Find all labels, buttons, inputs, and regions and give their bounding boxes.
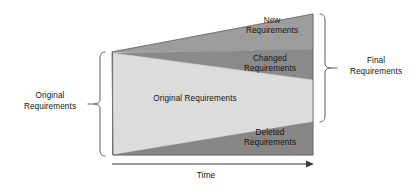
requirements-evolution-figure: New Requirements Changed Requirements Or…: [0, 0, 417, 188]
brace-left: [88, 52, 105, 156]
brace-label-original-requirements: Original Requirements: [14, 91, 86, 112]
axis-label-time: Time: [176, 170, 236, 180]
brace-right: [320, 14, 337, 122]
time-axis-arrow: [112, 161, 314, 168]
brace-label-final-requirements: Final Requirements: [340, 56, 412, 77]
